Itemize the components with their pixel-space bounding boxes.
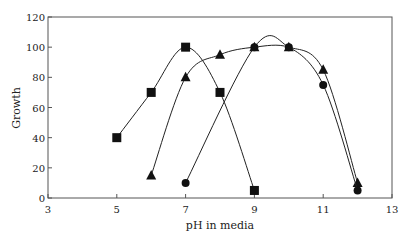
x-tick-label: 13 — [386, 204, 399, 215]
square-marker — [112, 133, 121, 142]
circle-marker — [285, 43, 293, 51]
circle-marker — [182, 179, 190, 187]
square-marker — [147, 88, 156, 97]
chart: 020406080100120 35791113 Growth pH in me… — [0, 0, 412, 242]
y-tick-label: 40 — [32, 133, 45, 144]
y-tick-label: 120 — [26, 12, 45, 23]
x-tick-label: 5 — [114, 204, 120, 215]
series-triangle — [146, 42, 362, 187]
series-circle — [182, 36, 362, 195]
y-tick-label: 60 — [32, 103, 45, 114]
square-marker — [250, 186, 259, 195]
square-marker — [216, 88, 225, 97]
x-axis-label: pH in media — [186, 219, 255, 232]
circle-marker — [319, 81, 327, 89]
x-tick-label: 11 — [317, 204, 330, 215]
data-series — [112, 36, 362, 195]
circle-marker — [354, 186, 362, 194]
y-tick-label: 100 — [26, 42, 45, 53]
x-axis-ticks: 35791113 — [45, 194, 399, 215]
x-tick-label: 9 — [251, 204, 257, 215]
triangle-marker — [215, 49, 225, 59]
square-marker — [181, 43, 190, 52]
series-square — [112, 43, 259, 195]
triangle-marker — [318, 64, 328, 74]
triangle-marker — [181, 72, 191, 82]
y-axis-label: Growth — [10, 87, 23, 129]
x-tick-label: 7 — [182, 204, 188, 215]
circle-marker — [250, 43, 258, 51]
plot-frame — [48, 17, 392, 198]
y-tick-label: 20 — [32, 163, 45, 174]
x-tick-label: 3 — [45, 204, 51, 215]
y-tick-label: 0 — [39, 193, 45, 204]
triangle-marker — [146, 170, 156, 180]
y-tick-label: 80 — [32, 72, 45, 83]
